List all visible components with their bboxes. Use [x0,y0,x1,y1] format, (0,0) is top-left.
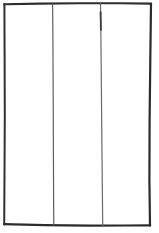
top-edge [4,3,151,4]
panel-center[interactable] [54,4,100,225]
bottom-edge [4,224,150,225]
sketch-drawing [0,0,159,233]
panel-right[interactable] [103,4,150,225]
left-edge [4,4,5,224]
panel-left[interactable] [5,4,52,225]
sketch-canvas [0,0,159,233]
